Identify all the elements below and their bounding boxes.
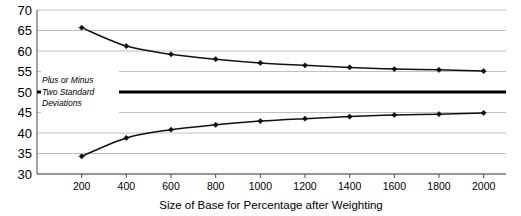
x-tick-label-1600: 1600 [383,180,407,192]
y-tick-label-30: 30 [18,167,32,182]
x-axis-title: Size of Base for Percentage after Weight… [159,199,383,211]
y-tick-label-55: 55 [18,64,32,79]
y-tick-label-70: 70 [18,3,32,18]
x-tick-label-1200: 1200 [293,180,317,192]
annotation-line-1: Plus or Minus [42,75,94,85]
annotation-line-3: Deviations [42,98,82,108]
chart-canvas: 706560555045403530 200400600800100012001… [0,0,521,216]
x-tick-label-600: 600 [162,180,180,192]
y-tick-label-60: 60 [18,44,32,59]
line-chart: 706560555045403530 200400600800100012001… [0,0,521,216]
x-tick-label-2000: 2000 [472,180,496,192]
y-tick-label-40: 40 [18,126,32,141]
y-tick-labels-group: 706560555045403530 [18,3,32,182]
x-tick-label-800: 800 [207,180,225,192]
x-tick-label-200: 200 [73,180,91,192]
annotation-line-2: Two Standard [42,87,95,97]
x-tick-label-1400: 1400 [338,180,362,192]
y-tick-label-65: 65 [18,23,32,38]
x-tick-label-1800: 1800 [427,180,451,192]
y-tick-label-50: 50 [18,85,32,100]
y-tick-label-35: 35 [18,146,32,161]
x-tick-label-1000: 1000 [249,180,273,192]
y-tick-label-45: 45 [18,105,32,120]
x-tick-label-400: 400 [118,180,136,192]
